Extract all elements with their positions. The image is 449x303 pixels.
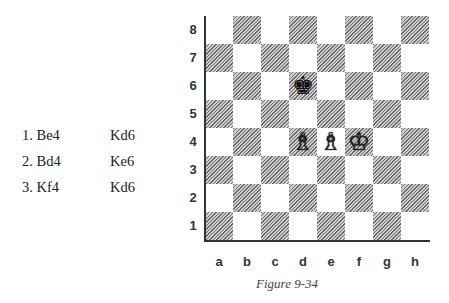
square-g6 xyxy=(373,72,401,100)
square-d8 xyxy=(289,16,317,44)
square-f2 xyxy=(345,184,373,212)
square-d4: ♗ xyxy=(289,128,317,156)
file-label-c: c xyxy=(261,254,289,269)
square-h7 xyxy=(401,44,429,72)
square-e1 xyxy=(317,212,345,240)
square-h4 xyxy=(401,128,429,156)
square-b7 xyxy=(233,44,261,72)
square-a7 xyxy=(205,44,233,72)
white-move: 2. Bd4 xyxy=(22,148,110,174)
square-h5 xyxy=(401,100,429,128)
square-g5 xyxy=(373,100,401,128)
black-king-icon: ♚ xyxy=(292,72,314,100)
square-g3 xyxy=(373,156,401,184)
square-c8 xyxy=(261,16,289,44)
white-bishop-icon: ♗ xyxy=(292,128,314,156)
square-h2 xyxy=(401,184,429,212)
file-label-f: f xyxy=(345,254,373,269)
square-h8 xyxy=(401,16,429,44)
file-label-b: b xyxy=(233,254,261,269)
move-row: 1. Be4 Kd6 xyxy=(22,122,135,148)
white-move: 3. Kf4 xyxy=(22,174,110,200)
board-bottom-border xyxy=(204,240,430,242)
square-g8 xyxy=(373,16,401,44)
move-list: 1. Be4 Kd6 2. Bd4 Ke6 3. Kf4 Kd6 xyxy=(22,122,135,200)
board-left-border xyxy=(204,16,206,242)
white-bishop-icon: ♗ xyxy=(320,128,342,156)
square-b5 xyxy=(233,100,261,128)
square-b6 xyxy=(233,72,261,100)
square-f5 xyxy=(345,100,373,128)
square-b1 xyxy=(233,212,261,240)
square-c4 xyxy=(261,128,289,156)
move-row: 3. Kf4 Kd6 xyxy=(22,174,135,200)
square-d6: ♚ xyxy=(289,72,317,100)
square-c2 xyxy=(261,184,289,212)
square-f1 xyxy=(345,212,373,240)
square-g7 xyxy=(373,44,401,72)
move-row: 2. Bd4 Ke6 xyxy=(22,148,135,174)
rank-label-8: 8 xyxy=(186,22,200,37)
square-d1 xyxy=(289,212,317,240)
rank-label-2: 2 xyxy=(186,190,200,205)
square-f8 xyxy=(345,16,373,44)
file-label-e: e xyxy=(317,254,345,269)
square-f4: ♔ xyxy=(345,128,373,156)
square-b2 xyxy=(233,184,261,212)
square-e4: ♗ xyxy=(317,128,345,156)
black-move: Kd6 xyxy=(110,122,135,148)
square-e7 xyxy=(317,44,345,72)
rank-label-3: 3 xyxy=(186,162,200,177)
square-b8 xyxy=(233,16,261,44)
square-a1 xyxy=(205,212,233,240)
square-a3 xyxy=(205,156,233,184)
rank-label-6: 6 xyxy=(186,78,200,93)
square-g4 xyxy=(373,128,401,156)
figure-caption: Figure 9-34 xyxy=(256,276,318,292)
chessboard: ♚♗♗♔ xyxy=(205,16,429,240)
square-c1 xyxy=(261,212,289,240)
square-e2 xyxy=(317,184,345,212)
square-a4 xyxy=(205,128,233,156)
square-e3 xyxy=(317,156,345,184)
square-b3 xyxy=(233,156,261,184)
square-e8 xyxy=(317,16,345,44)
square-e6 xyxy=(317,72,345,100)
square-c5 xyxy=(261,100,289,128)
black-move: Ke6 xyxy=(110,148,134,174)
square-f6 xyxy=(345,72,373,100)
square-h6 xyxy=(401,72,429,100)
square-d3 xyxy=(289,156,317,184)
white-king-icon: ♔ xyxy=(348,128,370,156)
square-h3 xyxy=(401,156,429,184)
rank-label-7: 7 xyxy=(186,50,200,65)
square-d7 xyxy=(289,44,317,72)
file-label-h: h xyxy=(401,254,429,269)
square-d2 xyxy=(289,184,317,212)
square-a8 xyxy=(205,16,233,44)
square-c3 xyxy=(261,156,289,184)
square-g2 xyxy=(373,184,401,212)
square-a2 xyxy=(205,184,233,212)
square-f3 xyxy=(345,156,373,184)
file-label-a: a xyxy=(205,254,233,269)
rank-label-5: 5 xyxy=(186,106,200,121)
square-b4 xyxy=(233,128,261,156)
black-move: Kd6 xyxy=(110,174,135,200)
square-a6 xyxy=(205,72,233,100)
rank-label-1: 1 xyxy=(186,218,200,233)
square-f7 xyxy=(345,44,373,72)
white-move: 1. Be4 xyxy=(22,122,110,148)
square-c6 xyxy=(261,72,289,100)
file-label-g: g xyxy=(373,254,401,269)
square-g1 xyxy=(373,212,401,240)
square-d5 xyxy=(289,100,317,128)
file-label-d: d xyxy=(289,254,317,269)
square-e5 xyxy=(317,100,345,128)
square-c7 xyxy=(261,44,289,72)
rank-label-4: 4 xyxy=(186,134,200,149)
square-a5 xyxy=(205,100,233,128)
square-h1 xyxy=(401,212,429,240)
